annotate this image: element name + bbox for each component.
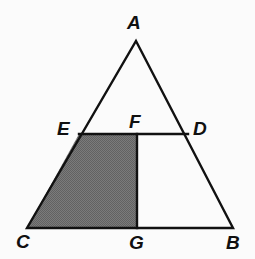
vertex-label-A: A [127,13,141,32]
vertex-label-E: E [57,119,70,138]
vertex-label-F: F [129,112,141,131]
vertex-label-C: C [16,232,30,251]
vertex-label-B: B [226,233,240,252]
geometry-figure: A E F D C G B [0,0,255,259]
shaded-trapezoid-CEFG [27,134,137,228]
vertex-label-D: D [193,119,207,138]
geometry-canvas [0,0,255,259]
vertex-label-G: G [129,233,144,252]
